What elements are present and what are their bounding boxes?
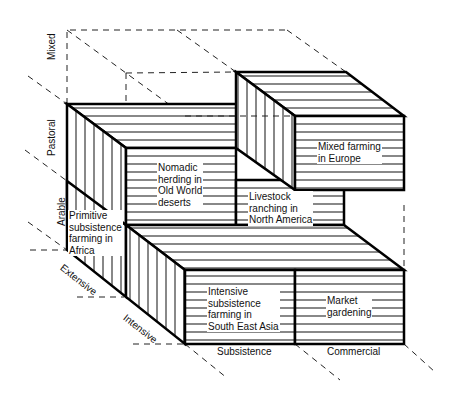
block-diagram [0, 0, 458, 400]
axis-label-subsistence: Subsistence [217, 346, 271, 357]
axis-label-pastoral: Pastoral [46, 119, 57, 156]
label-seasia: Intensivesubsistencefarming inSouth East… [207, 286, 280, 332]
axis-label-commercial: Commercial [327, 346, 380, 357]
label-livestock: Livestockranching inNorth America [248, 191, 313, 226]
label-nomadic: Nomadicherding inOld Worlddeserts [157, 162, 203, 208]
label-europe: Mixed farmingin Europe [317, 141, 382, 164]
label-africa: Primitivesubsistencefarming inAfrica [68, 210, 123, 256]
axis-label-mixed: Mixed [46, 33, 57, 60]
label-market: Marketgardening [326, 295, 372, 318]
axis-label-arable: Arable [56, 197, 67, 226]
